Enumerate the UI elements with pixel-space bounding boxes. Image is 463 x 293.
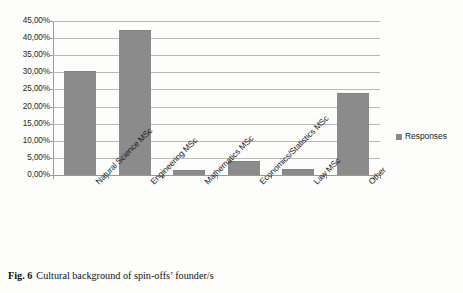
y-axis-tick-label: 25,00% [2,85,50,93]
legend-item-label: Responses [405,132,447,141]
gridline [53,72,380,73]
gridline [53,21,380,22]
gridline [53,55,380,56]
bar [64,71,96,175]
y-axis: 0,00%5,00%10,00%15,00%20,00%25,00%30,00%… [0,21,50,176]
figure-caption: Fig. 6Cultural background of spin-offs’ … [8,270,214,282]
y-axis-tick-label: 40,00% [2,34,50,42]
y-axis-tick-label: 35,00% [2,51,50,59]
bar-chart: 0,00%5,00%10,00%15,00%20,00%25,00%30,00%… [0,6,463,258]
y-axis-tick-label: 20,00% [2,103,50,111]
y-axis-tick-label: 45,00% [2,17,50,25]
figure-caption-number: Fig. 6 [8,270,32,281]
y-axis-tick-label: 10,00% [2,137,50,145]
y-axis-tick-label: 30,00% [2,68,50,76]
gridline [53,107,380,108]
figure-caption-text: Cultural background of spin-offs’ founde… [36,270,213,281]
gridline [53,38,380,39]
x-axis-labels: Natural Science MScEngineering MScMathem… [53,178,380,258]
y-axis-tick-label: 0,00% [2,171,50,179]
gridline [53,89,380,90]
gridline [53,141,380,142]
gridline [53,124,380,125]
y-axis-tick-label: 5,00% [2,154,50,162]
plot-area [53,21,380,175]
legend-square-icon [396,134,402,140]
bar [173,170,205,175]
chart-legend: Responses [396,132,447,141]
bar [282,169,314,175]
figure-container: 0,00%5,00%10,00%15,00%20,00%25,00%30,00%… [0,0,463,293]
y-axis-tick-label: 15,00% [2,120,50,128]
